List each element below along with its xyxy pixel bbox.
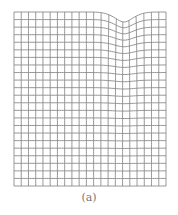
grid-row-line bbox=[14, 57, 166, 60]
grid-column-line bbox=[136, 16, 137, 186]
grid-row-line bbox=[14, 50, 166, 54]
grid-row-line bbox=[14, 103, 166, 104]
grid-row-line bbox=[14, 125, 166, 126]
grid-row-line bbox=[14, 73, 166, 75]
grid-row-line bbox=[14, 20, 166, 28]
deformed-mesh-grid bbox=[0, 0, 178, 215]
figure-caption: (a) bbox=[0, 191, 178, 204]
grid-row-line bbox=[14, 80, 166, 82]
grid-row-line bbox=[14, 88, 166, 89]
grid-row-line bbox=[14, 118, 166, 119]
grid-row-line bbox=[14, 42, 166, 46]
grid-row-line bbox=[14, 65, 166, 67]
grid-row-line bbox=[14, 35, 166, 40]
grid-row-line bbox=[14, 27, 166, 34]
grid-row-line bbox=[14, 95, 166, 96]
grid-column-line bbox=[108, 15, 109, 186]
grid-row-line bbox=[14, 110, 166, 111]
vertical-grid-lines bbox=[14, 12, 166, 186]
horizontal-grid-lines bbox=[14, 12, 166, 186]
grid-column-line bbox=[115, 19, 116, 186]
